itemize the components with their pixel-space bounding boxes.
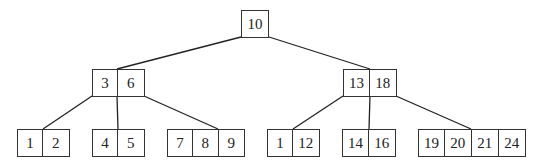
tree-edge [144, 96, 218, 129]
node-leaf-3: 7 8 9 [167, 129, 245, 157]
key-cell: 8 [192, 129, 219, 157]
tree-edge [117, 96, 118, 129]
node-root: 10 [241, 10, 269, 38]
node-leaf-2: 4 5 [92, 129, 145, 157]
node-internal-right: 13 18 [343, 69, 397, 97]
key-cell: 2 [42, 129, 70, 157]
key-cell: 21 [471, 129, 499, 157]
key-cell: 18 [369, 69, 397, 97]
node-leaf-6: 19 20 21 24 [418, 129, 526, 157]
key-cell: 4 [92, 129, 118, 157]
key-cell: 1 [17, 129, 43, 157]
node-leaf-4: 1 12 [267, 129, 320, 157]
key-cell: 5 [117, 129, 145, 157]
key-cell: 19 [418, 129, 445, 157]
key-cell: 9 [218, 129, 245, 157]
key-cell: 12 [292, 129, 320, 157]
node-leaf-5: 14 16 [342, 129, 396, 157]
key-cell: 24 [498, 129, 526, 157]
key-cell: 16 [368, 129, 396, 157]
tree-edge [43, 96, 92, 129]
key-cell: 14 [342, 129, 369, 157]
key-cell: 20 [444, 129, 472, 157]
tree-edge [396, 96, 471, 129]
node-internal-left: 3 6 [92, 69, 145, 97]
key-cell: 6 [117, 69, 145, 97]
key-cell: 3 [92, 69, 118, 97]
tree-edge [117, 37, 241, 69]
node-leaf-1: 1 2 [17, 129, 70, 157]
tree-edge [369, 96, 370, 129]
tree-edge [269, 37, 370, 69]
key-cell: 10 [241, 10, 269, 38]
key-cell: 1 [267, 129, 293, 157]
key-cell: 7 [167, 129, 193, 157]
tree-edge [293, 96, 343, 129]
key-cell: 13 [343, 69, 370, 97]
